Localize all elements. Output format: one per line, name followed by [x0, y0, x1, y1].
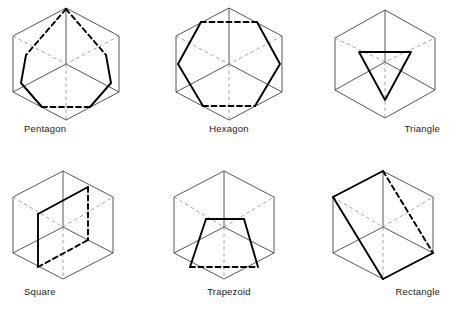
figure-caption-rectangle: Rectangle: [395, 287, 440, 297]
triangle-cube-figure: [307, 0, 457, 128]
figure-caption-triangle: Triangle: [404, 124, 440, 134]
trapezoid-cube-figure: [154, 163, 304, 291]
square-cube-figure: [1, 163, 151, 291]
figure-cell-square: Square: [0, 163, 153, 325]
figure-caption-trapezoid: Trapezoid: [207, 287, 251, 297]
figure-cell-rectangle: Rectangle: [305, 163, 458, 325]
figure-caption-square: Square: [24, 287, 56, 297]
pentagon-cube-figure: [1, 0, 151, 128]
figure-cell-hexagon: Hexagon: [153, 0, 306, 163]
figure-caption-hexagon: Hexagon: [209, 124, 248, 134]
hexagon-cube-figure: [154, 0, 304, 128]
figure-cell-pentagon: Pentagon: [0, 0, 153, 163]
figure-cell-triangle: Triangle: [305, 0, 458, 163]
figure-caption-pentagon: Pentagon: [24, 124, 66, 134]
rectangle-cube-figure: [307, 163, 457, 291]
figure-cell-trapezoid: Trapezoid: [153, 163, 306, 325]
cross-section-figure-grid: Pentagon Hexagon: [0, 0, 458, 325]
